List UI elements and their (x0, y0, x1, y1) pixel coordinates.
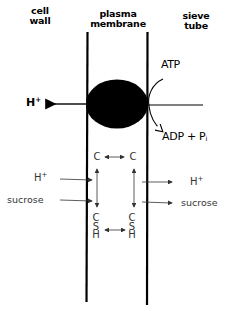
h-in-sup: + (42, 171, 48, 179)
h-out-text: H (26, 96, 35, 109)
sucrose-in-label: sucrose (7, 195, 44, 205)
right-membrane-line (147, 32, 148, 305)
h-out-sieve-label: H+ (190, 177, 203, 187)
carrier-top-left-c: C (92, 152, 102, 162)
h-in-label: H+ (34, 173, 47, 183)
sucrose-in-text: sucrose (7, 194, 44, 205)
carrier-bl-h: H (91, 231, 101, 240)
carrier-bottom-left-csh: C S H (91, 214, 101, 240)
adp-pi-label: ADP + Pi (162, 132, 207, 142)
h-out-sieve-text: H (190, 176, 198, 187)
atpase-pump-oval (86, 80, 148, 129)
sucrose-out-text: sucrose (181, 197, 218, 208)
diagram-graphics (0, 0, 229, 311)
atp-text: ATP (161, 58, 180, 71)
pi-sub: i (205, 135, 207, 143)
sucrose-out-label: sucrose (181, 198, 218, 208)
carrier-top-right-c: C (128, 152, 138, 162)
carrier-bottom-right-csh: C S H (127, 214, 137, 240)
h-in-text: H (34, 172, 42, 183)
adp-text: ADP + P (162, 130, 205, 143)
h-out-sup: + (35, 96, 41, 104)
h-out-sieve-sup: + (198, 175, 204, 183)
atp-label: ATP (161, 60, 180, 70)
carrier-br-h: H (127, 231, 137, 240)
left-membrane-line (87, 32, 88, 302)
h-out-label: H+ (26, 98, 41, 108)
